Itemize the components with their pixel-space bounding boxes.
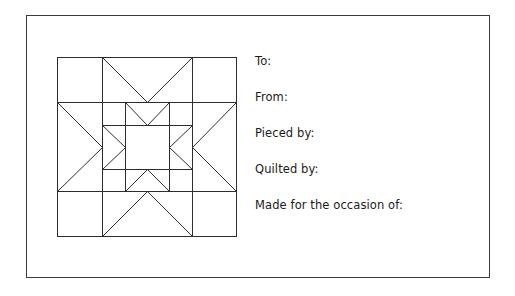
- quilt-label-card: To: From: Pieced by: Quilted by: Made fo…: [26, 15, 490, 278]
- field-row-quilted-by: Quilted by:: [255, 150, 475, 186]
- outer-flying-geese: [58, 58, 237, 237]
- field-row-to: To:: [255, 42, 475, 78]
- field-row-pieced-by: Pieced by:: [255, 114, 475, 150]
- outer-block-frame: [58, 58, 237, 237]
- field-label-occasion: Made for the occasion of:: [255, 198, 403, 212]
- inner-star-grid: [103, 103, 193, 192]
- outer-block-grid: [58, 58, 237, 237]
- field-label-quilted-by: Quilted by:: [255, 162, 319, 176]
- field-row-from: From:: [255, 78, 475, 114]
- star-within-a-star-quilt-block: [57, 48, 237, 246]
- inner-flying-geese: [103, 103, 193, 192]
- field-label-to: To:: [255, 54, 271, 68]
- field-row-occasion: Made for the occasion of:: [255, 186, 475, 222]
- field-label-pieced-by: Pieced by:: [255, 126, 314, 140]
- field-label-from: From:: [255, 90, 288, 104]
- center-square: [126, 126, 170, 170]
- inner-star-frame: [103, 103, 193, 192]
- label-fields-list: To: From: Pieced by: Quilted by: Made fo…: [255, 42, 475, 222]
